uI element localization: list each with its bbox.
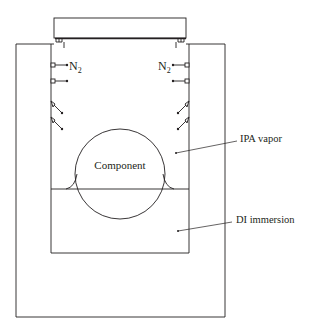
n2-label-right: N2 bbox=[158, 59, 171, 75]
component-label: Component bbox=[94, 159, 145, 171]
nozzle-tip-dot bbox=[66, 64, 68, 66]
ipa-vapor-leader bbox=[176, 141, 237, 153]
ipa-nozzle-left-2 bbox=[51, 117, 62, 129]
n2-nozzle-left-2 bbox=[51, 79, 67, 83]
process-diagram: N2 N2 Component IPA vapor DI immersion bbox=[0, 0, 309, 328]
nozzle-tip-dot bbox=[172, 80, 174, 82]
leader-dot bbox=[175, 152, 177, 154]
n2-nozzle-left-1 bbox=[51, 63, 67, 67]
nozzle-tip-dot bbox=[177, 128, 179, 130]
nozzle-tip-dot bbox=[61, 112, 63, 114]
di-immersion-leader bbox=[178, 222, 232, 231]
lid bbox=[54, 18, 186, 38]
lid-foot-left bbox=[56, 39, 64, 48]
ipa-nozzle-right-1 bbox=[178, 101, 189, 113]
n2-nozzle-right-2 bbox=[173, 79, 189, 83]
outer-tank bbox=[16, 44, 225, 317]
nozzle-tip-dot bbox=[177, 112, 179, 114]
n2-label-left: N2 bbox=[69, 59, 82, 75]
component bbox=[75, 129, 165, 219]
lid-foot-right bbox=[176, 39, 184, 48]
n2-nozzle-right-1 bbox=[173, 63, 189, 67]
nozzle-tip-dot bbox=[172, 64, 174, 66]
inner-tank bbox=[51, 44, 189, 253]
leader-dot bbox=[177, 230, 179, 232]
di-immersion-label: DI immersion bbox=[236, 214, 295, 225]
nozzle-tip-dot bbox=[61, 128, 63, 130]
nozzle-tip-dot bbox=[66, 80, 68, 82]
ipa-vapor-label: IPA vapor bbox=[240, 133, 282, 144]
ipa-nozzle-right-2 bbox=[178, 117, 189, 129]
ipa-nozzle-left-1 bbox=[51, 101, 62, 113]
